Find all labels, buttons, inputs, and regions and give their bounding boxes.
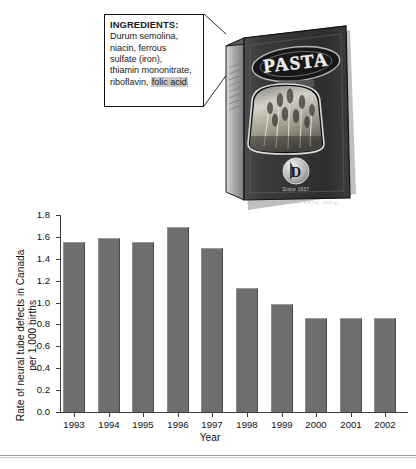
y-tick-label: 1.4: [24, 254, 50, 264]
y-axis-line: [60, 215, 61, 413]
y-tick: [56, 303, 60, 304]
y-tick: [56, 281, 60, 282]
x-tick: [178, 413, 179, 417]
y-tick-label: 0.6: [24, 341, 50, 351]
x-tick: [143, 413, 144, 417]
ingredient-line-final: riboflavin, folic acid: [110, 77, 199, 88]
y-axis-title: Rate of neural tube defects in Canada pe…: [15, 245, 40, 425]
x-tick-label: 1993: [57, 419, 91, 430]
y-tick: [56, 237, 60, 238]
bar: [340, 318, 362, 412]
y-tick: [56, 215, 60, 216]
bar: [271, 304, 293, 412]
ingredients-callout: INGREDIENTS: Durum semolina, niacin, fer…: [104, 14, 204, 107]
y-tick-label: 1.2: [24, 276, 50, 286]
y-tick-label: 1.8: [24, 210, 50, 220]
x-axis-title: Year: [150, 432, 270, 443]
x-tick: [212, 413, 213, 417]
x-tick-label: 2002: [368, 419, 402, 430]
bar: [98, 238, 120, 412]
pasta-package-image: PASTA: [218, 16, 358, 214]
x-tick-label: 1997: [195, 419, 229, 430]
x-tick: [351, 413, 352, 417]
y-tick: [56, 259, 60, 260]
bar: [132, 242, 154, 412]
ingredient-line: thiamin mononitrate,: [110, 65, 199, 76]
y-tick-label: 0.4: [24, 363, 50, 373]
y-tick-label: 0.0: [24, 407, 50, 417]
bar: [167, 227, 189, 412]
x-tick: [385, 413, 386, 417]
bar: [374, 318, 396, 412]
x-axis-line: [60, 412, 408, 413]
package-emblem: D Since 1937: [283, 158, 310, 192]
bar: [201, 248, 223, 412]
x-tick-label: 1999: [265, 419, 299, 430]
x-tick-label: 1994: [92, 419, 126, 430]
y-tick: [56, 368, 60, 369]
x-tick: [316, 413, 317, 417]
ingredient-line: Durum semolina,: [110, 31, 199, 42]
ingredient-line: niacin, ferrous: [110, 43, 199, 54]
x-tick: [109, 413, 110, 417]
package-wheat-window: [246, 82, 326, 156]
y-tick: [56, 324, 60, 325]
svg-text:Since 1937: Since 1937: [283, 187, 310, 192]
y-tick-label: 0.2: [24, 385, 50, 395]
ingredients-title: INGREDIENTS:: [110, 19, 199, 31]
bottom-divider: [0, 455, 416, 456]
svg-text:D: D: [291, 165, 301, 180]
x-tick: [74, 413, 75, 417]
y-tick-label: 1.6: [24, 232, 50, 242]
y-tick: [56, 412, 60, 413]
x-tick: [247, 413, 248, 417]
bar-chart: Rate of neural tube defects in Canada pe…: [0, 205, 416, 445]
figure-root: INGREDIENTS: Durum semolina, niacin, fer…: [0, 0, 416, 469]
x-tick-label: 1995: [126, 419, 160, 430]
bar: [236, 288, 258, 412]
bar: [305, 318, 327, 412]
bottom-divider-shadow: [0, 457, 416, 458]
y-tick-label: 1.0: [24, 298, 50, 308]
x-tick: [282, 413, 283, 417]
ingredient-line: sulfate (iron),: [110, 54, 199, 65]
y-tick-label: 0.8: [24, 319, 50, 329]
x-tick-label: 1998: [230, 419, 264, 430]
x-tick-label: 2000: [299, 419, 333, 430]
x-tick-label: 2001: [334, 419, 368, 430]
folic-acid-highlight: folic acid: [151, 77, 188, 87]
y-tick: [56, 346, 60, 347]
x-tick-label: 1996: [161, 419, 195, 430]
bar: [63, 242, 85, 412]
y-tick: [56, 390, 60, 391]
ingredient-riboflavin: riboflavin,: [110, 77, 151, 87]
